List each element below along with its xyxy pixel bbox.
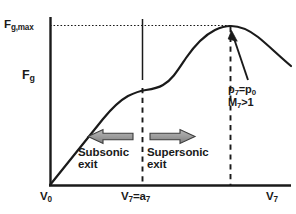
peak-annotation-rel: >1	[241, 96, 253, 108]
subsonic-direction-arrow	[88, 130, 133, 144]
y-axis-title: Fg	[22, 69, 35, 83]
peak-annotation-line2: M7>1	[228, 97, 256, 110]
x-axis-title-sub: 7	[274, 195, 278, 204]
y-axis-title-sub: g	[30, 73, 35, 83]
subsonic-caption-line1: Subsonic	[78, 146, 129, 158]
x-axis-tick-sonic-main: V	[121, 190, 129, 202]
x-axis-tick-sonic-equals: =a	[133, 190, 146, 202]
y-axis-max-label-sub: g,max	[11, 23, 34, 32]
x-axis-tick-origin-main: V	[40, 190, 48, 202]
supersonic-caption-line1: Supersonic	[147, 146, 209, 158]
subsonic-caption-line2: exit	[78, 158, 129, 170]
x-axis-title-main: V	[266, 190, 274, 202]
peak-annotation-eq: =p	[239, 83, 252, 95]
x-axis-title: V7	[266, 190, 278, 204]
figure-gross-thrust-diagram: Fg,max Fg V0 V7=a7 V7 Subsonicexit Super…	[0, 0, 296, 214]
y-axis-title-main: F	[22, 68, 30, 82]
peak-annotation-p-main: p	[228, 83, 235, 95]
peak-condition-annotation: p7=p0M7>1	[228, 84, 256, 110]
supersonic-direction-arrow	[150, 130, 195, 144]
x-axis-tick-label-origin: V0	[40, 190, 52, 204]
supersonic-caption-line2: exit	[147, 158, 209, 170]
y-axis-max-label: Fg,max	[4, 18, 34, 32]
peak-annotation-m-main: M	[228, 96, 237, 108]
supersonic-region-caption: Supersonicexit	[147, 146, 209, 170]
x-axis-tick-sonic-sub2: 7	[146, 195, 150, 204]
y-axis-max-label-main: F	[4, 18, 11, 30]
annotation-leader-arrow	[228, 31, 248, 81]
x-axis-tick-label-sonic: V7=a7	[121, 190, 150, 204]
x-axis-tick-origin-sub: 0	[48, 195, 52, 204]
subsonic-region-caption: Subsonicexit	[78, 146, 129, 170]
